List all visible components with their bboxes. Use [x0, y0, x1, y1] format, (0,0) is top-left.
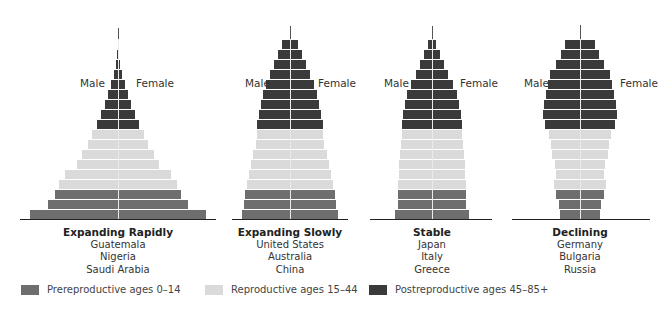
female-bar-reproductive: [290, 160, 329, 169]
male-bar-postreproductive: [548, 80, 580, 89]
male-bar-prereproductive: [55, 190, 118, 199]
male-bar-reproductive: [555, 160, 580, 169]
male-bar-reproductive: [402, 130, 432, 139]
male-bar-postreproductive: [108, 90, 118, 99]
female-bar-reproductive: [580, 180, 606, 189]
male-bar-postreproductive: [111, 80, 118, 89]
female-bar-postreproductive: [580, 40, 595, 49]
male-bar-postreproductive: [274, 60, 290, 69]
male-bar-postreproductive: [420, 60, 432, 69]
female-bar-reproductive: [290, 150, 327, 159]
male-bar-reproductive: [257, 130, 290, 139]
caption-title: Expanding Rapidly: [38, 226, 198, 239]
female-bar-postreproductive: [118, 120, 139, 129]
male-bar-prereproductive: [245, 190, 290, 199]
center-axis: [580, 39, 581, 219]
male-bar-postreproductive: [101, 110, 118, 119]
male-bar-postreproductive: [97, 120, 118, 129]
female-bar-prereproductive: [580, 200, 601, 209]
male-bar-prereproductive: [560, 210, 580, 219]
male-bar-reproductive: [400, 150, 432, 159]
legend-label: Postreproductive ages 45–85+: [395, 284, 548, 295]
female-bar-reproductive: [432, 170, 465, 179]
country: Guatemala: [38, 239, 198, 252]
baseline: [232, 219, 348, 220]
caption-declining: Declining Germany Bulgaria Russia: [500, 226, 660, 276]
female-bar-reproductive: [432, 150, 464, 159]
male-label: Male: [80, 77, 105, 89]
age-structure-diagram: MaleFemale MaleFemale MaleFemale MaleFem…: [0, 0, 672, 311]
country: Germany: [500, 239, 660, 252]
male-label: Male: [245, 77, 270, 89]
reproductive-swatch: [205, 285, 223, 295]
female-bar-postreproductive: [580, 60, 604, 69]
male-bar-reproductive: [399, 170, 432, 179]
male-bar-reproductive: [554, 180, 580, 189]
female-bar-postreproductive: [290, 120, 323, 129]
female-bar-postreproductive: [432, 50, 440, 59]
female-bar-prereproductive: [290, 210, 338, 219]
male-label: Male: [384, 77, 409, 89]
female-bar-postreproductive: [118, 110, 135, 119]
male-bar-reproductive: [247, 180, 290, 189]
female-bar-postreproductive: [432, 90, 457, 99]
male-bar-postreproductive: [263, 90, 290, 99]
female-bar-reproductive: [432, 130, 462, 139]
female-bar-postreproductive: [580, 110, 617, 119]
center-axis-stem: [432, 26, 433, 40]
male-bar-reproductive: [82, 150, 118, 159]
center-axis: [290, 39, 291, 219]
male-bar-reproductive: [399, 160, 432, 169]
legend-item-postreproductive: Postreproductive ages 45–85+: [369, 284, 548, 295]
female-bar-reproductive: [118, 180, 177, 189]
male-bar-reproductive: [253, 150, 290, 159]
male-bar-postreproductive: [556, 60, 580, 69]
female-bar-reproductive: [118, 160, 159, 169]
female-bar-postreproductive: [118, 90, 128, 99]
country: Japan: [352, 239, 512, 252]
female-bar-reproductive: [580, 140, 609, 149]
baseline: [20, 219, 216, 220]
caption-expanding-rapidly: Expanding Rapidly Guatemala Nigeria Saud…: [38, 226, 198, 276]
male-bar-prereproductive: [559, 200, 580, 209]
female-bar-postreproductive: [580, 50, 599, 59]
caption-title: Stable: [352, 226, 512, 239]
male-bar-reproductive: [65, 170, 118, 179]
female-bar-prereproductive: [118, 200, 188, 209]
male-bar-reproductive: [551, 140, 580, 149]
female-bar-reproductive: [290, 130, 323, 139]
male-bar-postreproductive: [278, 50, 290, 59]
legend-item-reproductive: Reproductive ages 15–44: [205, 284, 358, 295]
center-axis-stem: [580, 25, 581, 40]
caption-stable: Stable Japan Italy Greece: [352, 226, 512, 276]
male-bar-prereproductive: [244, 200, 290, 209]
female-bar-reproductive: [432, 140, 463, 149]
male-bar-postreproductive: [416, 70, 432, 79]
female-bar-postreproductive: [290, 40, 298, 49]
caption-title: Expanding Slowly: [210, 226, 370, 239]
country: Russia: [500, 264, 660, 277]
female-bar-postreproductive: [432, 110, 461, 119]
male-bar-postreproductive: [402, 120, 432, 129]
female-bar-postreproductive: [118, 100, 131, 109]
female-bar-reproductive: [118, 150, 154, 159]
female-bar-postreproductive: [432, 100, 459, 109]
male-bar-postreproductive: [546, 90, 580, 99]
male-bar-prereproductive: [395, 210, 432, 219]
female-bar-postreproductive: [580, 120, 615, 129]
female-bar-postreproductive: [118, 80, 125, 89]
male-bar-prereproductive: [398, 190, 432, 199]
male-bar-postreproductive: [561, 50, 580, 59]
female-bar-postreproductive: [290, 100, 319, 109]
country: Greece: [352, 264, 512, 277]
country: United States: [210, 239, 370, 252]
female-bar-reproductive: [290, 180, 333, 189]
female-bar-postreproductive: [580, 80, 612, 89]
male-bar-postreproductive: [261, 100, 290, 109]
male-bar-reproductive: [556, 170, 580, 179]
male-bar-postreproductive: [403, 110, 432, 119]
male-bar-reproductive: [256, 140, 290, 149]
male-bar-reproductive: [549, 130, 580, 139]
baseline: [512, 219, 650, 220]
male-bar-reproductive: [88, 140, 118, 149]
